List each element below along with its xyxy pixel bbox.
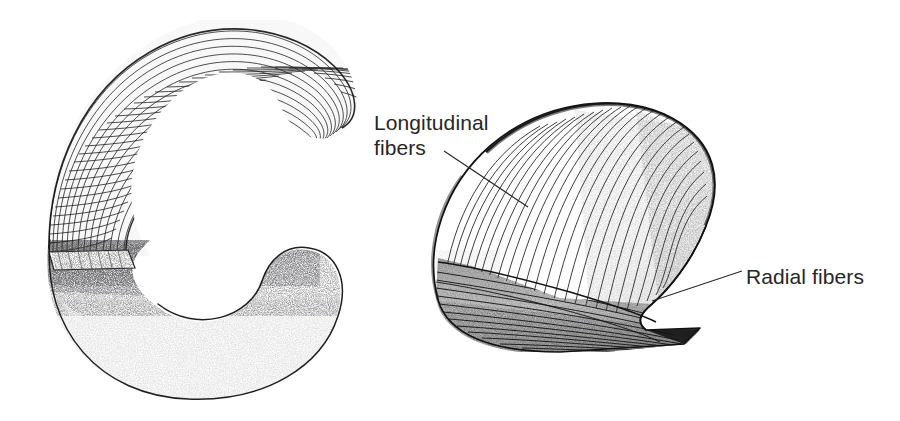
label-longitudinal-fibers: Longitudinal fibers — [374, 110, 488, 160]
illustration-canvas — [0, 0, 900, 421]
label-radial-fibers: Radial fibers — [746, 264, 864, 289]
figure-root: Longitudinal fibers Radial fibers — [0, 0, 900, 421]
